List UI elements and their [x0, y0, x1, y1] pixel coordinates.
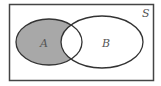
universe-label: S	[142, 7, 150, 20]
venn-diagram: A B S	[0, 0, 161, 86]
set-b-label: B	[101, 37, 110, 50]
set-a-label: A	[39, 37, 48, 50]
